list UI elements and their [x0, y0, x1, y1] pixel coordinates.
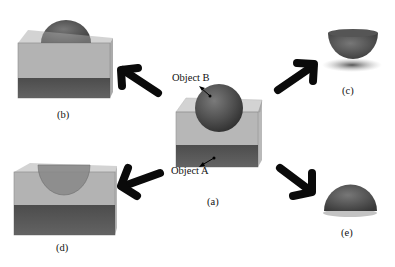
label-panel-e: (e)	[341, 227, 353, 238]
figure: (b) (c) (a) (d) (e) Object B Object A	[0, 0, 395, 267]
label-panel-d: (d)	[56, 242, 68, 253]
arrow-to-c	[278, 63, 314, 90]
diagram-canvas	[0, 0, 395, 267]
arrow-to-d	[121, 168, 160, 196]
label-panel-b: (b)	[57, 109, 69, 120]
arrow-to-b	[121, 68, 158, 93]
panel-b	[18, 20, 113, 98]
label-panel-c: (c)	[342, 85, 354, 96]
annotation-object-a: Object A	[171, 165, 209, 176]
annotation-object-b: Object B	[172, 72, 210, 83]
panel-d	[14, 163, 117, 235]
panel-c	[322, 29, 382, 72]
sphere-object-b	[195, 84, 243, 132]
panel-e	[323, 185, 377, 217]
dome-e	[324, 185, 377, 211]
panel-a	[176, 84, 262, 167]
label-panel-a: (a)	[207, 196, 219, 207]
arrow-to-e	[280, 168, 312, 196]
